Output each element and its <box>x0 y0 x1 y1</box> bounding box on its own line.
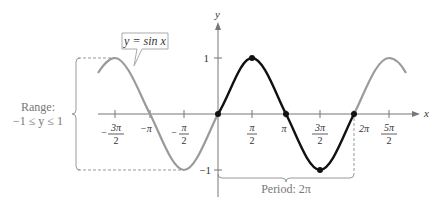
svg-text:π: π <box>249 122 255 133</box>
period-label: Period: 2π <box>261 182 311 196</box>
period-brace <box>218 174 354 182</box>
x-tick-labels: − 3π 2 −π − π 2 π 2 π 3π 2 2π 5π 2 <box>101 122 397 146</box>
y-axis-arrow-icon <box>215 22 221 30</box>
sine-curve-gray-right <box>354 58 406 114</box>
svg-text:2: 2 <box>318 135 323 146</box>
svg-text:5π: 5π <box>384 122 395 133</box>
svg-text:π: π <box>181 122 187 133</box>
y-axis-label: y <box>214 8 220 20</box>
svg-text:π: π <box>281 123 287 134</box>
x-axis-label: x <box>423 107 429 119</box>
svg-text:2: 2 <box>387 135 392 146</box>
svg-text:2π: 2π <box>359 123 370 134</box>
function-callout: y = sin x <box>122 33 168 66</box>
svg-text:2: 2 <box>182 135 187 146</box>
svg-text:−π: −π <box>140 123 153 134</box>
range-brace <box>72 58 80 170</box>
svg-text:2: 2 <box>250 135 255 146</box>
y-tick-neg1: −1 <box>199 164 211 176</box>
sine-graph: y = sin x x y 1 −1 − 3π 2 −π − π 2 π 2 π… <box>0 0 436 203</box>
svg-text:−: − <box>171 127 177 138</box>
range-expression: −1 ≤ y ≤ 1 <box>13 114 63 128</box>
svg-text:3π: 3π <box>314 122 326 133</box>
svg-text:3π: 3π <box>110 122 122 133</box>
svg-text:−: − <box>101 127 107 138</box>
svg-text:y = sin x: y = sin x <box>123 34 166 48</box>
x-axis-arrow-icon <box>412 111 420 117</box>
svg-text:2: 2 <box>114 135 119 146</box>
y-tick-1: 1 <box>204 52 210 64</box>
range-title: Range: <box>21 100 55 114</box>
